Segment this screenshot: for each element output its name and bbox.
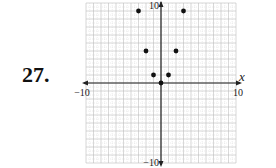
x-axis-arrow-left-icon — [82, 81, 88, 86]
y-axis-arrow-down-icon — [159, 161, 164, 167]
data-point — [144, 49, 149, 54]
data-point — [151, 73, 156, 78]
x-axis-label: x — [238, 69, 245, 84]
y-tick-min: −10 — [143, 157, 159, 168]
y-axis-arrow-up-icon — [159, 1, 164, 7]
data-point — [159, 81, 164, 86]
y-tick-max: 10 — [149, 0, 159, 11]
data-point — [166, 73, 171, 78]
data-point — [174, 49, 179, 54]
x-tick-min: −10 — [74, 87, 90, 98]
scatter-plot: −101010−10x — [0, 0, 276, 168]
x-tick-max: 10 — [233, 87, 243, 98]
data-point — [181, 9, 186, 14]
data-point — [136, 9, 141, 14]
